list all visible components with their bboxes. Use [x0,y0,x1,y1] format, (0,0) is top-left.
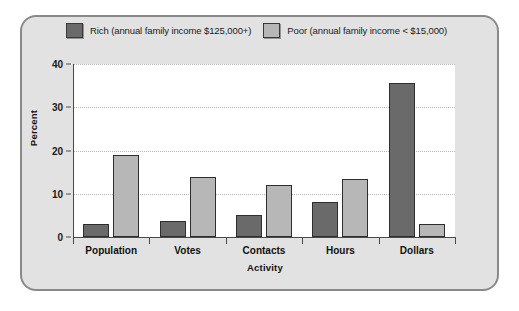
bar-rich-dollars[interactable] [389,83,415,237]
bar-rich-hours[interactable] [312,202,338,237]
x-tick-label-hours: Hours [326,245,355,256]
gridline-40 [73,64,455,65]
y-tick-label-10: 10 [43,188,63,199]
bar-poor-votes[interactable] [190,177,216,237]
x-tick-label-population: Population [85,245,137,256]
legend-label-poor: Poor (annual family income < $15,000) [287,25,447,36]
x-tick-mark-end [455,237,456,244]
x-tick-mark-3 [302,237,303,244]
x-tick-mark-1 [149,237,150,244]
light-gray-swatch-icon [263,23,280,38]
y-tick-label-20: 20 [43,145,63,156]
x-tick-mark-4 [379,237,380,244]
legend-item-rich[interactable]: Rich (annual family income $125,000+) [66,23,251,38]
dark-gray-swatch-icon [66,23,83,38]
x-tick-mark-0 [73,237,74,244]
x-axis-line [73,237,456,238]
x-tick-label-dollars: Dollars [400,245,434,256]
y-tick-30: 30 [43,102,73,113]
y-tick-0: 0 [43,232,73,243]
bar-poor-dollars[interactable] [419,224,445,237]
bar-rich-votes[interactable] [160,221,186,237]
x-tick-mark-2 [226,237,227,244]
y-tick-label-40: 40 [43,59,63,70]
y-tick-mark-10 [66,193,71,194]
bar-poor-population[interactable] [113,155,139,237]
y-tick-10: 10 [43,188,73,199]
bar-rich-population[interactable] [83,224,109,237]
y-tick-mark-0 [66,237,71,238]
y-tick-label-30: 30 [43,102,63,113]
y-tick-mark-30 [66,107,71,108]
bar-poor-contacts[interactable] [266,185,292,237]
chart-legend: Rich (annual family income $125,000+) Po… [66,23,447,38]
y-axis-label: Percent [28,110,39,146]
y-tick-label-0: 0 [43,232,63,243]
x-tick-label-votes: Votes [174,245,201,256]
legend-label-rich: Rich (annual family income $125,000+) [90,25,251,36]
y-axis-line [73,64,74,238]
chart-figure: Rich (annual family income $125,000+) Po… [0,0,519,311]
y-tick-mark-20 [66,150,71,151]
x-tick-label-contacts: Contacts [243,245,286,256]
plot-area [73,64,455,237]
bar-rich-contacts[interactable] [236,215,262,237]
y-tick-20: 20 [43,145,73,156]
y-tick-mark-40 [66,64,71,65]
bar-poor-hours[interactable] [342,179,368,237]
y-tick-40: 40 [43,59,73,70]
legend-item-poor[interactable]: Poor (annual family income < $15,000) [263,23,447,38]
x-axis-label: Activity [247,262,283,273]
